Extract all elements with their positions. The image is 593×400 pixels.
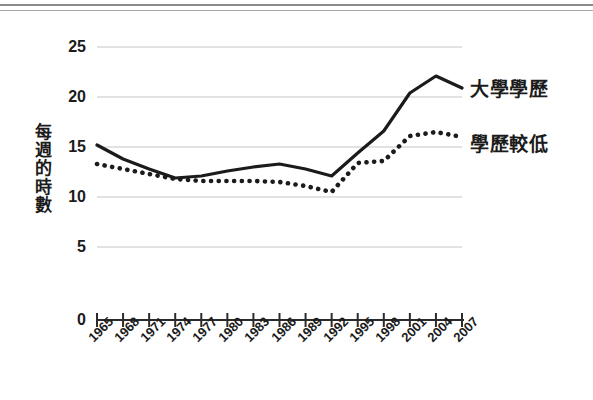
data-series bbox=[97, 76, 462, 192]
y-axis-tick-label-10: 10 bbox=[52, 189, 86, 205]
y-axis-tick-label-15: 15 bbox=[52, 139, 86, 155]
legend-item-less-education: 學歷較低 bbox=[470, 135, 548, 154]
series-line-college-degree bbox=[97, 76, 462, 178]
line-chart: 每週的時數 0510152025 19651968197119741977198… bbox=[0, 0, 593, 400]
y-axis-tick-label-5: 5 bbox=[52, 239, 86, 255]
series-line-less-education bbox=[97, 132, 462, 192]
gridlines bbox=[97, 47, 462, 247]
y-axis-tick-label-0: 0 bbox=[52, 312, 86, 328]
y-axis-tick-label-25: 25 bbox=[52, 39, 86, 55]
y-axis-title-char-2: 的 bbox=[30, 160, 56, 178]
chart-plot-area bbox=[0, 0, 593, 400]
y-axis-tick-label-20: 20 bbox=[52, 89, 86, 105]
legend-item-college-degree: 大學學歷 bbox=[470, 80, 548, 99]
